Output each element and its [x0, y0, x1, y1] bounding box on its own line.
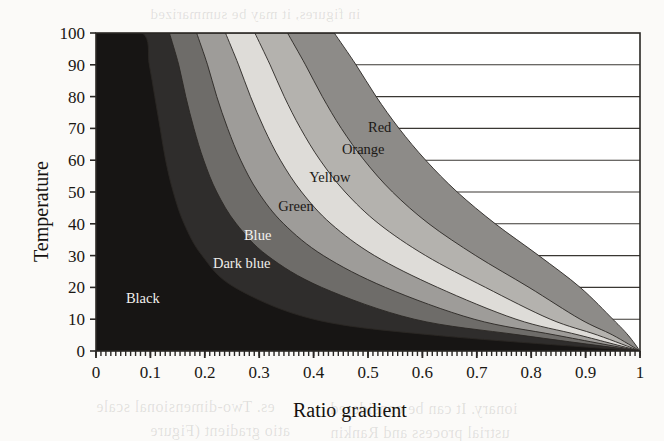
x-tick-label: 0.7 [466, 363, 488, 382]
x-tick-label: 0.5 [357, 363, 378, 382]
x-tick-label: 0 [92, 363, 101, 382]
y-tick-label: 60 [68, 151, 85, 170]
region-label: Green [278, 198, 314, 214]
x-axis-title: Ratio gradient [293, 399, 407, 422]
y-tick-label: 50 [68, 183, 85, 202]
region-label: Black [126, 290, 161, 306]
x-tick-label: 1 [636, 363, 645, 382]
y-axis-title: Temperature [30, 161, 53, 262]
y-tick-label: 40 [68, 215, 85, 234]
y-axis-ticks: 0102030405060708090100 [60, 24, 97, 361]
y-tick-label: 100 [60, 24, 86, 43]
x-tick-label: 0.9 [575, 363, 596, 382]
region-label: Red [368, 119, 392, 135]
x-tick-label: 0.3 [249, 363, 270, 382]
x-tick-label: 0.2 [194, 363, 215, 382]
y-tick-label: 20 [68, 278, 85, 297]
x-tick-label: 0.6 [412, 363, 433, 382]
y-tick-label: 90 [68, 56, 85, 75]
y-tick-label: 70 [68, 119, 85, 138]
region-label: Dark blue [213, 255, 271, 271]
y-tick-label: 80 [68, 88, 85, 107]
region-label: Orange [342, 141, 385, 157]
y-tick-label: 30 [68, 247, 85, 266]
region-label: Blue [244, 227, 271, 243]
x-tick-label: 0.4 [303, 363, 325, 382]
x-tick-label: 0.1 [140, 363, 161, 382]
figure-page: in figures, it may be summarizedthe case… [0, 0, 664, 441]
x-tick-label: 0.8 [521, 363, 542, 382]
region-label: Yellow [309, 169, 351, 185]
y-tick-label: 0 [77, 342, 86, 361]
y-tick-label: 10 [68, 310, 85, 329]
contour-region-chart: 0102030405060708090100 00.10.20.30.40.50… [0, 0, 664, 441]
